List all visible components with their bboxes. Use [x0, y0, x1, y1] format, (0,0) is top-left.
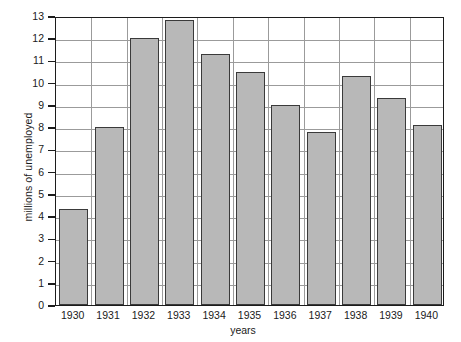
x-tick-label-1935: 1935: [232, 309, 267, 321]
y-tick-label-6: 6: [22, 167, 44, 178]
y-tick-mark-5: [48, 194, 55, 196]
y-tick-label-9: 9: [22, 100, 44, 111]
x-tick-label-1933: 1933: [161, 309, 196, 321]
bar-1934: [201, 54, 230, 305]
y-tick-mark-11: [48, 61, 55, 63]
bar-1930: [59, 209, 88, 305]
gridline-x-2: [127, 18, 128, 305]
bar-1935: [236, 72, 265, 305]
y-tick-mark-12: [48, 38, 55, 40]
y-tick-mark-9: [48, 105, 55, 107]
y-tick-mark-13: [48, 16, 55, 18]
bar-1939: [377, 98, 406, 305]
y-tick-label-13: 13: [22, 11, 44, 22]
gridline-y-11: [56, 62, 443, 63]
gridline-x-7: [304, 18, 305, 305]
bar-1940: [413, 125, 442, 305]
y-tick-label-11: 11: [22, 55, 44, 66]
gridline-x-10: [410, 18, 411, 305]
bar-1931: [95, 127, 124, 305]
y-tick-label-12: 12: [22, 33, 44, 44]
gridline-x-8: [339, 18, 340, 305]
gridline-x-6: [268, 18, 269, 305]
bar-1933: [165, 20, 194, 305]
y-tick-mark-1: [48, 283, 55, 285]
y-tick-mark-2: [48, 261, 55, 263]
gridline-x-1: [91, 18, 92, 305]
y-tick-label-1: 1: [22, 278, 44, 289]
y-tick-mark-6: [48, 172, 55, 174]
gridline-x-9: [374, 18, 375, 305]
x-tick-label-1931: 1931: [90, 309, 125, 321]
x-tick-label-1932: 1932: [126, 309, 161, 321]
y-tick-mark-10: [48, 83, 55, 85]
y-tick-mark-0: [48, 305, 55, 307]
x-tick-label-1936: 1936: [267, 309, 302, 321]
y-tick-mark-3: [48, 239, 55, 241]
bar-1937: [307, 132, 336, 305]
gridline-x-4: [197, 18, 198, 305]
gridline-x-3: [162, 18, 163, 305]
y-tick-label-2: 2: [22, 256, 44, 267]
x-axis-title: years: [43, 324, 443, 336]
bar-1932: [130, 38, 159, 305]
x-tick-label-1930: 1930: [55, 309, 90, 321]
y-tick-label-4: 4: [22, 211, 44, 222]
y-tick-label-7: 7: [22, 144, 44, 155]
y-tick-label-5: 5: [22, 189, 44, 200]
gridline-y-12: [56, 40, 443, 41]
y-tick-mark-4: [48, 216, 55, 218]
y-tick-label-0: 0: [22, 300, 44, 311]
x-tick-label-1934: 1934: [196, 309, 231, 321]
y-tick-label-3: 3: [22, 233, 44, 244]
x-tick-label-1939: 1939: [373, 309, 408, 321]
plot-area: [55, 17, 444, 306]
y-tick-label-10: 10: [22, 78, 44, 89]
y-tick-mark-7: [48, 150, 55, 152]
x-tick-label-1938: 1938: [338, 309, 373, 321]
bar-chart: millions of unemployed 01234567891011121…: [0, 0, 461, 342]
y-tick-label-8: 8: [22, 122, 44, 133]
bar-1936: [271, 105, 300, 305]
gridline-x-5: [233, 18, 234, 305]
y-tick-mark-8: [48, 127, 55, 129]
x-tick-label-1940: 1940: [409, 309, 444, 321]
bar-1938: [342, 76, 371, 305]
x-tick-label-1937: 1937: [303, 309, 338, 321]
